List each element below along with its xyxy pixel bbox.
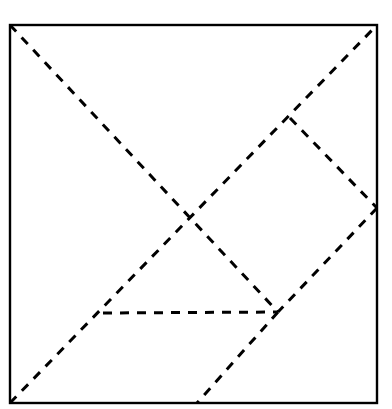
construction-diagram-svg — [0, 0, 392, 409]
diagram-background — [0, 0, 392, 409]
figure-canvas — [0, 0, 392, 409]
